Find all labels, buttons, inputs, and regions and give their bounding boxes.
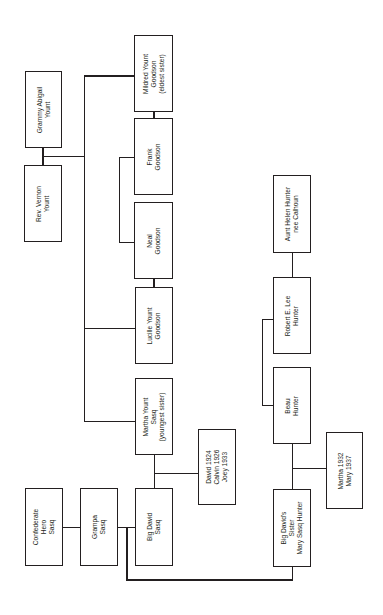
person-label: David 1924 Calvin 1926 Joey 1933 bbox=[205, 450, 229, 485]
person-neal-goodson: Neal Goodson bbox=[134, 202, 173, 279]
connector-helen-robert bbox=[292, 253, 294, 277]
person-martha-yount-sasq: Martha Yount Sasq (youngest sister) bbox=[135, 378, 173, 455]
sasq-children-box: David 1924 Calvin 1926 Joey 1933 bbox=[198, 429, 236, 505]
connector-frank-neal-bottom bbox=[119, 242, 135, 244]
hunter-children-box: Martha 1932 Mary 1937 bbox=[326, 432, 363, 509]
connector-neal-lucille bbox=[153, 279, 155, 287]
connector-robert-beau-bottom bbox=[262, 405, 274, 407]
sibling-line-down bbox=[126, 527, 128, 581]
branch-to-sasq-kids bbox=[154, 473, 199, 475]
person-label: Lucille Yount Goodson bbox=[146, 307, 162, 344]
person-label: Martha Yount Sasq (youngest sister) bbox=[142, 392, 166, 441]
person-rev-vernon-yount: Rev. Vernon Yount bbox=[24, 165, 62, 242]
person-grammy-abigail-yount: Grammy Abigail Yount bbox=[25, 71, 62, 148]
branch-to-lucille bbox=[84, 328, 136, 330]
connector-frank-neal-top bbox=[119, 157, 135, 159]
person-big-david-sasq: Big David Sasq bbox=[135, 488, 173, 566]
person-label: Grampa Sasq bbox=[91, 515, 107, 539]
person-label: Robert E. Lee Hunter bbox=[284, 295, 300, 336]
person-grampa-sasq: Grampa Sasq bbox=[80, 488, 118, 566]
person-label: Big David Sasq bbox=[146, 513, 162, 541]
yount-children-trunk bbox=[84, 75, 86, 422]
person-frank-goodson: Frank Goodson bbox=[134, 118, 173, 195]
person-mary-sasq-hunter: Big David's Sister Mary Sasq Hunter bbox=[273, 489, 311, 567]
branch-to-mildred bbox=[84, 75, 135, 77]
person-label: Frank Goodson bbox=[146, 143, 162, 170]
person-label: Confederate Hero Sasq bbox=[32, 509, 56, 545]
person-mildred-yount-goodson: Mildred Yount Goodson (eldest sister) bbox=[134, 35, 173, 112]
family-tree-diagram: Grammy Abigail Yount Rev. Vernon Yount M… bbox=[0, 0, 383, 615]
connector-robert-beau-top bbox=[262, 319, 274, 321]
person-beau-hunter: Beau Hunter bbox=[273, 367, 311, 444]
connector-frank-neal-vertical bbox=[119, 157, 121, 243]
connector-martha-bigdavid bbox=[154, 455, 156, 488]
person-label: Aunt Helen Hunter nee Calhoun bbox=[284, 187, 300, 241]
person-label: Beau Hunter bbox=[284, 396, 300, 416]
person-confederate-hero-sasq: Confederate Hero Sasq bbox=[25, 488, 63, 566]
person-lucille-yount-goodson: Lucille Yount Goodson bbox=[135, 287, 173, 364]
person-label: Rev. Vernon Yount bbox=[35, 186, 51, 222]
person-label: Mildred Yount Goodson (eldest sister) bbox=[142, 54, 166, 94]
sibling-line-across bbox=[126, 579, 293, 581]
person-label: Grammy Abigail Yount bbox=[36, 86, 52, 133]
connector-robert-beau-vertical bbox=[262, 319, 264, 406]
person-aunt-helen-hunter: Aunt Helen Hunter nee Calhoun bbox=[273, 175, 311, 253]
connector-confederate-grampa bbox=[63, 527, 80, 529]
person-label: Neal Goodson bbox=[146, 227, 162, 254]
connector-beau-mary bbox=[292, 444, 294, 489]
branch-to-hunter-kids bbox=[292, 468, 327, 470]
branch-to-martha bbox=[84, 421, 136, 423]
person-label: Martha 1932 Mary 1937 bbox=[337, 452, 353, 489]
sibling-line-up-to-mary bbox=[292, 567, 294, 581]
person-robert-e-lee-hunter: Robert E. Lee Hunter bbox=[273, 277, 311, 354]
connector-yount-parents-to-trunk bbox=[42, 156, 85, 158]
person-label: Big David's Sister Mary Sasq Hunter bbox=[280, 501, 304, 554]
